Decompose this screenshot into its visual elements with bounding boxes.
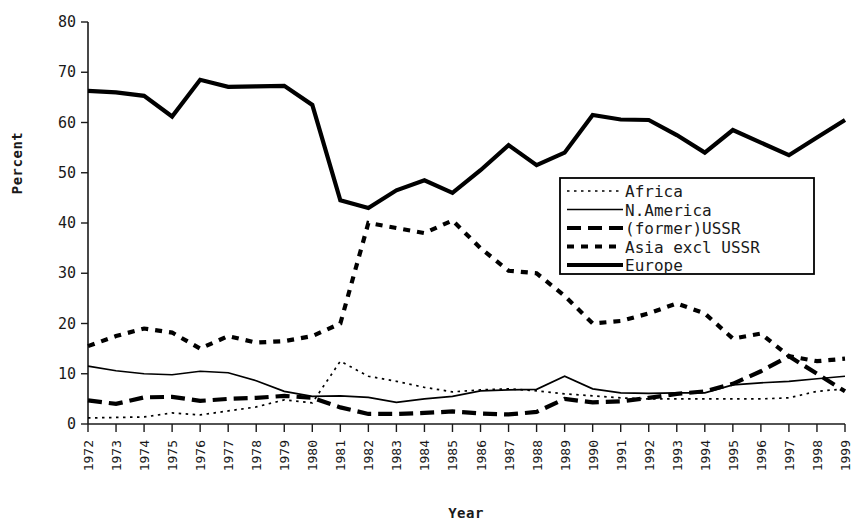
x-tick-label: 1972 bbox=[81, 440, 96, 471]
x-tick-label: 1978 bbox=[249, 440, 264, 471]
y-tick-label: 10 bbox=[58, 365, 76, 383]
legend-label: (former)USSR bbox=[625, 219, 741, 238]
x-tick-label: 1981 bbox=[333, 440, 348, 471]
x-tick-label: 1995 bbox=[726, 440, 741, 471]
chart-legend: AfricaN.America(former)USSRAsia excl USS… bbox=[560, 178, 814, 275]
chart-svg: 01020304050607080 1972197319741975197619… bbox=[0, 0, 862, 531]
x-tick-label: 1997 bbox=[782, 440, 797, 471]
x-tick-label: 1989 bbox=[558, 440, 573, 471]
x-tick-label: 1979 bbox=[277, 440, 292, 471]
x-tick-label: 1974 bbox=[137, 440, 152, 471]
x-tick-label: 1976 bbox=[193, 440, 208, 471]
y-tick-label: 40 bbox=[58, 214, 76, 232]
x-tick-label: 1977 bbox=[221, 440, 236, 471]
y-tick-label: 70 bbox=[58, 63, 76, 81]
y-tick-label: 50 bbox=[58, 164, 76, 182]
x-tick-label: 1999 bbox=[838, 440, 853, 471]
x-tick-label: 1994 bbox=[698, 440, 713, 471]
y-tick-label: 80 bbox=[58, 13, 76, 31]
y-tick-label: 20 bbox=[58, 315, 76, 333]
x-tick-label: 1992 bbox=[642, 440, 657, 471]
x-axis-title: Year bbox=[448, 505, 484, 521]
line-chart: 01020304050607080 1972197319741975197619… bbox=[0, 0, 862, 531]
x-tick-label: 1985 bbox=[445, 440, 460, 471]
x-tick-label: 1988 bbox=[530, 440, 545, 471]
y-tick-label: 0 bbox=[67, 415, 76, 433]
y-tick-label: 30 bbox=[58, 264, 76, 282]
x-tick-label: 1991 bbox=[614, 440, 629, 471]
x-tick-label: 1975 bbox=[165, 440, 180, 471]
x-tick-label: 1980 bbox=[305, 440, 320, 471]
legend-label: Europe bbox=[625, 256, 683, 275]
x-tick-label: 1982 bbox=[361, 440, 376, 471]
x-tick-label: 1973 bbox=[109, 440, 124, 471]
y-tick-label: 60 bbox=[58, 114, 76, 132]
legend-label: N.America bbox=[625, 201, 712, 220]
y-axis-title: Percent bbox=[9, 132, 25, 195]
x-tick-label: 1996 bbox=[754, 440, 769, 471]
x-tick-label: 1983 bbox=[389, 440, 404, 471]
x-tick-label: 1984 bbox=[417, 440, 432, 471]
legend-label: Asia excl USSR bbox=[625, 238, 760, 257]
x-tick-label: 1986 bbox=[474, 440, 489, 471]
x-tick-label: 1993 bbox=[670, 440, 685, 471]
x-tick-label: 1987 bbox=[502, 440, 517, 471]
x-tick-label: 1990 bbox=[586, 440, 601, 471]
legend-label: Africa bbox=[625, 182, 683, 201]
x-tick-label: 1998 bbox=[810, 440, 825, 471]
